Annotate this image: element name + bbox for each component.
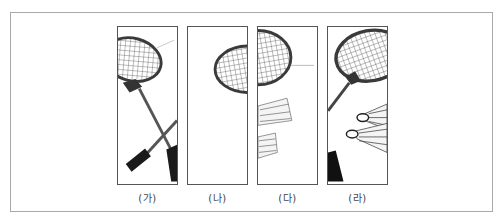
caption-da: (다) — [257, 190, 318, 205]
crossed-rackets-illustration — [118, 27, 177, 184]
figure-frame — [10, 12, 493, 212]
caption-ga: (가) — [117, 190, 178, 205]
caption-na: (나) — [187, 190, 248, 205]
panel-ra — [327, 26, 388, 185]
caption-ra: (라) — [327, 190, 388, 205]
racket-and-shuttlecocks-illustration — [258, 27, 317, 184]
panel-da — [257, 26, 318, 185]
panel-na — [187, 26, 248, 185]
panel-ga — [117, 26, 178, 185]
racket-head-illustration — [188, 27, 247, 184]
racket-and-shuttlecocks-illustration — [328, 27, 387, 184]
